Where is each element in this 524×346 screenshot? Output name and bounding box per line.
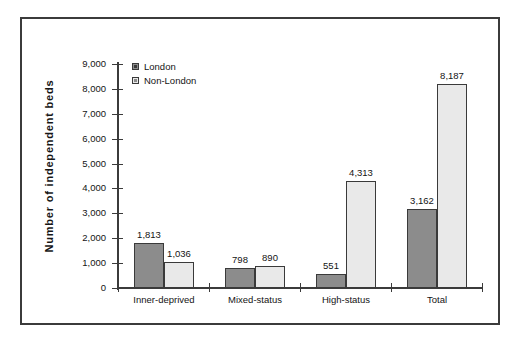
y-axis-tick <box>112 263 123 264</box>
bar-value-label: 8,187 <box>429 70 475 81</box>
y-axis-tick <box>112 238 123 239</box>
y-axis-tick <box>112 139 123 140</box>
legend-item-non-london: Non-London <box>132 74 196 87</box>
chart-figure: Number of independent beds 01,0002,0003,… <box>0 0 524 346</box>
y-axis-tick <box>112 188 123 189</box>
bar-value-label: 1,813 <box>126 229 172 240</box>
bar-non-london <box>255 266 285 288</box>
y-axis-tick-label: 6,000 <box>60 133 106 145</box>
y-axis-tick-label: 3,000 <box>60 207 106 219</box>
y-axis-tick-text: 1,000 <box>60 257 106 268</box>
legend-label-non-london: Non-London <box>144 75 196 86</box>
y-axis-tick-label: 9,000 <box>60 58 106 70</box>
y-axis-tick-label: 1,000 <box>60 257 106 269</box>
chart-legend: London Non-London <box>132 60 196 88</box>
y-axis-label: Number of independent beds <box>43 56 55 276</box>
category-label: Total <box>382 294 492 305</box>
y-axis-tick-label: 4,000 <box>60 182 106 194</box>
y-axis-tick-text: 9,000 <box>60 58 106 69</box>
y-axis-tick-text: 3,000 <box>60 207 106 218</box>
x-axis-tick <box>209 283 210 292</box>
y-axis-tick-text: 0 <box>60 282 106 293</box>
y-axis-tick-label: 8,000 <box>60 83 106 95</box>
bar-value-label: 890 <box>247 252 293 263</box>
y-axis-tick <box>112 164 123 165</box>
legend-swatch-non-london-icon <box>132 77 139 84</box>
y-axis-tick-text: 7,000 <box>60 108 106 119</box>
legend-label-london: London <box>144 61 176 72</box>
y-axis-tick-text: 2,000 <box>60 232 106 243</box>
x-axis-tick <box>482 283 483 292</box>
y-axis-tick-text: 6,000 <box>60 133 106 144</box>
legend-item-london: London <box>132 60 196 73</box>
y-axis-tick-text: 8,000 <box>60 83 106 94</box>
y-axis-line <box>117 62 119 290</box>
x-axis-tick <box>300 283 301 292</box>
y-axis-tick-text: 5,000 <box>60 158 106 169</box>
bar-value-label: 1,036 <box>156 248 202 259</box>
y-axis-tick <box>112 114 123 115</box>
bar-london <box>316 274 346 288</box>
bar-non-london <box>437 84 467 288</box>
y-axis-tick-label: 5,000 <box>60 158 106 170</box>
bar-value-label: 4,313 <box>338 167 384 178</box>
y-axis-tick-text: 4,000 <box>60 182 106 193</box>
x-axis-tick <box>118 283 119 292</box>
x-axis-tick <box>391 283 392 292</box>
y-axis-tick-label: 0 <box>60 282 106 294</box>
y-axis-tick <box>112 89 123 90</box>
bar-london <box>407 209 437 288</box>
bar-non-london <box>346 181 376 288</box>
y-axis-tick <box>112 213 123 214</box>
y-axis-tick-label: 7,000 <box>60 108 106 120</box>
bar-non-london <box>164 262 194 288</box>
bar-london <box>225 268 255 288</box>
legend-swatch-london-icon <box>132 63 139 70</box>
y-axis-tick <box>112 64 123 65</box>
y-axis-tick-label: 2,000 <box>60 232 106 244</box>
